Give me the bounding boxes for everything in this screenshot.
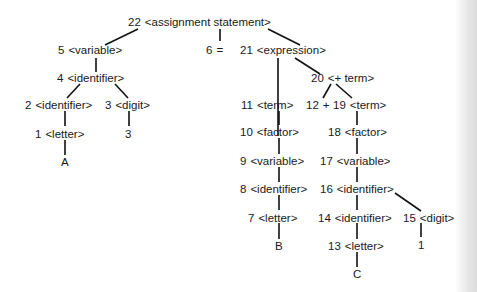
- node-number: 15: [403, 212, 416, 224]
- node-label: =: [216, 44, 223, 56]
- node-label: <identifier>: [335, 212, 392, 224]
- node-variable: 9<variable>: [240, 154, 304, 168]
- node-label: <expression>: [257, 44, 326, 56]
- node-number: 8: [240, 183, 246, 195]
- leaf-letter-C: C: [353, 267, 361, 281]
- node-number: 3: [105, 99, 111, 111]
- node-identifier: 14<identifier>: [318, 211, 392, 225]
- node-factor: 10<factor>: [240, 125, 299, 139]
- node-number: 2: [25, 99, 31, 111]
- node-label: <identifier>: [35, 99, 92, 111]
- node-number: 10: [240, 126, 253, 138]
- node-identifier: 2<identifier>: [25, 98, 92, 112]
- node-digit: 3<digit>: [105, 98, 150, 112]
- node-label: <+ term>: [328, 72, 374, 84]
- node-number: 11: [241, 99, 253, 111]
- leaf-digit-3: 3: [125, 127, 131, 141]
- node-number: 5: [58, 44, 64, 56]
- node-term: 19<term>: [333, 98, 386, 112]
- leaf-digit-1: 1: [418, 238, 424, 252]
- node-label: <digit>: [115, 99, 150, 111]
- node-label: <variable>: [250, 155, 304, 167]
- node-identifier: 8<identifier>: [240, 182, 307, 196]
- node-number: 20: [311, 72, 324, 84]
- node-assignment-statement: 22<assignment statement>: [128, 15, 271, 29]
- node-term: 11<term>: [241, 98, 293, 112]
- node-number: 13: [328, 240, 341, 252]
- node-plus: 12+: [306, 98, 330, 112]
- node-number: 18: [328, 126, 341, 138]
- node-label: <term>: [350, 99, 386, 111]
- node-label: <variable>: [337, 155, 391, 167]
- node-label: <identifier>: [67, 72, 124, 84]
- node-number: 17: [320, 155, 333, 167]
- node-label: <letter>: [258, 212, 297, 224]
- node-label: <assignment statement>: [145, 16, 271, 28]
- node-number: 19: [333, 99, 346, 111]
- leaf-letter-B: B: [275, 239, 283, 253]
- node-number: 9: [240, 155, 246, 167]
- node-number: 1: [35, 128, 41, 140]
- node-plus-term: 20<+ term>: [311, 71, 374, 85]
- node-variable: 17<variable>: [320, 154, 391, 168]
- leaf-letter-A: A: [61, 155, 69, 169]
- node-number: 4: [57, 72, 63, 84]
- node-number: 16: [320, 183, 333, 195]
- node-identifier: 4<identifier>: [57, 71, 124, 85]
- node-label: <digit>: [420, 212, 455, 224]
- node-equals: 6=: [206, 43, 223, 57]
- node-number: 12: [306, 99, 319, 111]
- node-factor: 18<factor>: [328, 125, 387, 139]
- node-digit: 15<digit>: [403, 211, 454, 225]
- node-label: <factor>: [257, 126, 299, 138]
- node-letter: 7<letter>: [248, 211, 297, 225]
- node-variable: 5<variable>: [58, 43, 122, 57]
- node-label: <variable>: [68, 44, 122, 56]
- node-identifier: 16<identifier>: [320, 182, 394, 196]
- node-label: <identifier>: [337, 183, 394, 195]
- node-number: 6: [206, 44, 212, 56]
- node-label: +: [323, 99, 330, 111]
- node-number: 22: [128, 16, 141, 28]
- node-number: 7: [248, 212, 254, 224]
- node-label: <factor>: [345, 126, 387, 138]
- node-number: 21: [240, 44, 253, 56]
- node-expression: 21<expression>: [240, 43, 326, 57]
- node-number: 14: [318, 212, 331, 224]
- node-label: <term>: [257, 99, 293, 111]
- node-label: <identifier>: [250, 183, 307, 195]
- node-letter: 1<letter>: [35, 127, 84, 141]
- node-label: <letter>: [345, 240, 384, 252]
- node-label: <letter>: [45, 128, 84, 140]
- node-letter: 13<letter>: [328, 239, 384, 253]
